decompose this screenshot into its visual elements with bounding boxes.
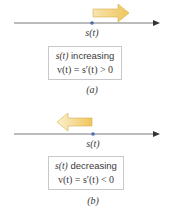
position-point [90, 21, 94, 25]
caption: (a) [72, 84, 112, 95]
position-label: s(t) [72, 27, 112, 38]
panel-a-increasing: s(t) s(t) increasing v(t) = s′(t) > 0 (a… [0, 0, 177, 105]
position-label: s(t) [73, 138, 113, 149]
arrow-left-icon [57, 113, 92, 131]
info-box: s(t) decreasing v(t) = s′(t) < 0 [48, 156, 124, 190]
velocity-formula: v(t) = s′(t) < 0 [53, 173, 119, 186]
caption: (b) [73, 195, 113, 206]
status-line: s(t) increasing [53, 49, 117, 63]
panel-b-decreasing: s(t) s(t) decreasing v(t) = s′(t) < 0 (b… [0, 105, 177, 210]
info-box: s(t) increasing v(t) = s′(t) > 0 [48, 46, 122, 80]
position-point [91, 132, 95, 136]
status-line: s(t) decreasing [53, 159, 119, 173]
arrow-right-icon [93, 4, 129, 22]
velocity-formula: v(t) = s′(t) > 0 [53, 63, 117, 76]
